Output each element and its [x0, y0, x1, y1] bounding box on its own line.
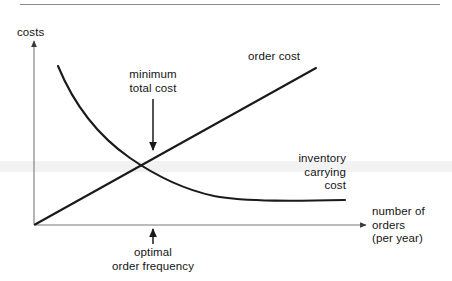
inventory-carrying-cost-label: inventory carrying cost — [270, 152, 346, 193]
optimal-order-frequency-label: optimal order frequency — [93, 246, 213, 273]
minimum-total-cost-label: minimum total cost — [118, 68, 188, 95]
x-axis-label: number of orders (per year) — [372, 205, 450, 246]
y-axis-label: costs — [17, 26, 44, 40]
figure-container: costs order cost minimum total cost inve… — [0, 0, 452, 281]
order-cost-label: order cost — [248, 50, 300, 64]
